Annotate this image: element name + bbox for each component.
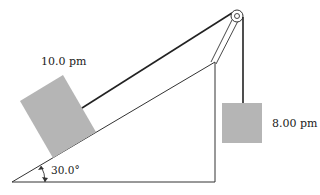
hanging-block [222,103,262,143]
pulley-axle [235,14,240,19]
angle-label: 30.0° [51,164,80,176]
hanging-block-mass-label: 8.00 pm [272,117,317,130]
incline-block-mass-label: 10.0 pm [41,55,86,68]
incline-pulley-diagram [0,0,320,195]
rope-incline [82,13,232,108]
angle-arrow-bottom [42,177,48,182]
pulley-strut-right [216,21,238,64]
pulley-strut-left [211,20,232,62]
incline-block [20,75,96,158]
